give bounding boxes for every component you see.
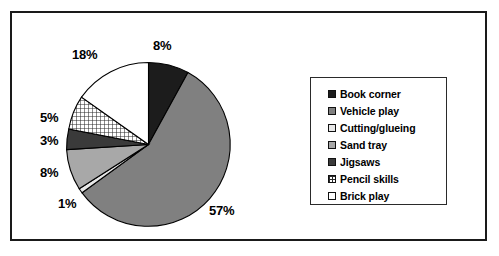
- pie-chart-plot-area: 8% 57% 1% 8% 3% 5% 18% Book corner Vehic…: [0, 0, 499, 256]
- legend-label-book-corner: Book corner: [340, 88, 401, 100]
- legend-item-pencil-skills[interactable]: Pencil skills: [328, 170, 446, 187]
- slice-label-brick-play: 18%: [72, 47, 97, 62]
- chart-legend: Book corner Vehicle play Cutting/glueing…: [310, 77, 447, 205]
- legend-swatch-book-corner-icon: [328, 90, 336, 98]
- legend-item-jigsaws[interactable]: Jigsaws: [328, 153, 446, 170]
- slice-label-jigsaws: 3%: [40, 133, 58, 148]
- slice-label-pencil-skills: 5%: [40, 110, 58, 125]
- legend-item-book-corner[interactable]: Book corner: [328, 85, 446, 102]
- legend-item-brick-play[interactable]: Brick play: [328, 187, 446, 204]
- slice-label-sand-tray: 8%: [40, 165, 58, 180]
- legend-swatch-sand-tray-icon: [328, 141, 336, 149]
- slice-label-vehicle-play: 57%: [209, 203, 234, 218]
- legend-label-sand-tray: Sand tray: [340, 139, 387, 151]
- legend-item-vehicle-play[interactable]: Vehicle play: [328, 102, 446, 119]
- legend-swatch-brick-play-icon: [328, 192, 336, 200]
- legend-item-sand-tray[interactable]: Sand tray: [328, 136, 446, 153]
- legend-swatch-pencil-skills-icon: [328, 175, 336, 183]
- slice-label-book-corner: 8%: [153, 38, 171, 53]
- legend-swatch-cutting-glueing-icon: [328, 124, 336, 132]
- legend-item-cutting-glueing[interactable]: Cutting/glueing: [328, 119, 446, 136]
- legend-label-brick-play: Brick play: [340, 190, 389, 202]
- legend-label-pencil-skills: Pencil skills: [340, 173, 399, 185]
- legend-label-vehicle-play: Vehicle play: [340, 105, 399, 117]
- legend-swatch-jigsaws-icon: [328, 158, 336, 166]
- legend-label-jigsaws: Jigsaws: [340, 156, 380, 168]
- legend-label-cutting-glueing: Cutting/glueing: [340, 122, 415, 134]
- legend-swatch-vehicle-play-icon: [328, 107, 336, 115]
- slice-label-cutting-glueing: 1%: [58, 196, 76, 211]
